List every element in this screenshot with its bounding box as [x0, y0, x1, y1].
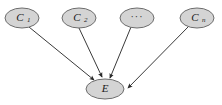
node-c2[interactable]: C 2: [62, 8, 96, 28]
node-c2-subscript: 2: [84, 16, 88, 24]
node-c1-subscript: 1: [27, 16, 31, 24]
node-e-label: E: [101, 82, 109, 94]
node-e[interactable]: E: [86, 79, 124, 99]
node-cn-label: C: [191, 11, 199, 23]
causal-diagram-figure: C 1 C 2 ··· C n E: [0, 0, 222, 105]
edge-c1-to-e: [29, 27, 94, 80]
node-cn-subscript: n: [202, 16, 206, 24]
node-cdots-label: ···: [131, 11, 144, 22]
node-c1[interactable]: C 1: [5, 8, 39, 28]
edges-group: [29, 26, 189, 88]
node-c2-label: C: [73, 11, 81, 23]
edge-c2-to-e: [79, 28, 102, 77]
node-c1-label: C: [16, 11, 24, 23]
diagram-canvas: C 1 C 2 ··· C n E: [0, 0, 222, 105]
edge-cn-to-e: [128, 26, 189, 88]
node-cn[interactable]: C n: [180, 8, 214, 28]
node-cdots[interactable]: ···: [120, 8, 154, 28]
edge-cdots-to-e: [110, 27, 131, 78]
